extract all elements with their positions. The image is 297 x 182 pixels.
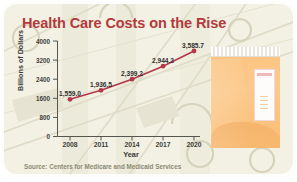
label-header-bar xyxy=(257,73,272,76)
y-axis-label: Billions of Dollars xyxy=(16,21,25,101)
source-credit: Source: Centers for Medicare and Medicai… xyxy=(24,163,181,170)
bag-crimp xyxy=(211,47,280,57)
ytick-label-800: 800 xyxy=(10,114,50,121)
data-label-2011: 1,936.5 xyxy=(90,81,112,88)
x-axis-label: Year xyxy=(61,150,201,159)
prescription-bag-photo xyxy=(211,47,280,148)
data-label-2008: 1,559.0 xyxy=(59,90,81,97)
label-text-lines xyxy=(260,96,268,110)
ytick-label-0: 0 xyxy=(10,133,50,140)
xtick-label-2011: 2011 xyxy=(85,141,117,148)
xtick-label-2014: 2014 xyxy=(116,141,148,148)
bag-fold xyxy=(211,122,280,148)
data-label-2020: 3,585.7 xyxy=(182,42,204,49)
xtick-label-2020: 2020 xyxy=(178,141,210,148)
xtick-label-2008: 2008 xyxy=(54,141,86,148)
prescription-label xyxy=(254,69,275,121)
data-label-2014: 2,399.2 xyxy=(121,70,143,77)
infographic-card: Health Care Costs on the Rise xyxy=(4,4,293,174)
data-label-2017: 2,944.2 xyxy=(152,57,174,64)
xtick-label-2017: 2017 xyxy=(147,141,179,148)
